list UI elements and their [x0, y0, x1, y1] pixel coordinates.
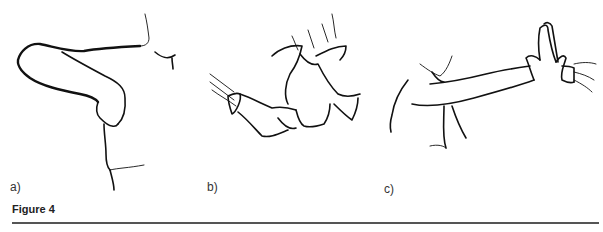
panel-a-drawing [18, 14, 175, 190]
panel-label-c: c) [384, 182, 394, 196]
figure-illustration [0, 0, 603, 232]
panel-b-drawing [210, 14, 360, 137]
panel-label-b: b) [207, 180, 218, 194]
panel-label-a: a) [10, 180, 21, 194]
figure-caption: Figure 4 [12, 203, 55, 215]
panel-c-drawing [390, 23, 596, 148]
caption-rule-divider [12, 222, 599, 224]
